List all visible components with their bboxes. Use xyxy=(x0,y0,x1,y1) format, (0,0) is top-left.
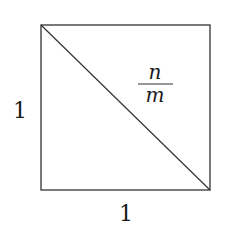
diagram-canvas: 1 1 n m xyxy=(0,0,231,233)
bottom-side-label: 1 xyxy=(119,201,133,226)
diagonal-line xyxy=(41,25,210,190)
fraction-denominator: m xyxy=(146,83,165,107)
fraction-label: n m xyxy=(138,60,173,107)
fraction-numerator: n xyxy=(149,60,162,84)
left-side-label: 1 xyxy=(13,98,27,123)
